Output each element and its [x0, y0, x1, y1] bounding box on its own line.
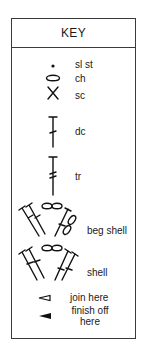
legend-label-dc: dc [75, 126, 86, 137]
legend-label-shell: shell [87, 267, 108, 278]
legend-label-line: finish off [67, 305, 113, 316]
key-header: KEY [12, 19, 135, 48]
legend-label-join-here: join here [70, 292, 108, 303]
legend-label-ch: ch [75, 73, 86, 84]
x-icon [46, 86, 60, 100]
dc-icon [47, 116, 59, 148]
legend-label-tr: tr [75, 171, 81, 182]
legend-label-beg-shell: beg shell [87, 225, 127, 236]
oval-icon [45, 74, 61, 82]
key-title: KEY [61, 26, 86, 40]
shell-icon [17, 244, 89, 284]
dot-icon [49, 62, 57, 70]
legend-label-line: here [67, 316, 113, 327]
legend-label-finish-off-here: finish off here [67, 305, 113, 327]
legend-label-sl-st: sl st [75, 59, 93, 70]
beg-shell-icon [17, 202, 87, 242]
tr-icon [47, 156, 59, 196]
legend-label-sc: sc [75, 90, 85, 101]
filled-triangle-icon [38, 312, 52, 320]
open-triangle-icon [38, 294, 52, 302]
stitch-key-legend: KEY sl st ch sc dc tr [11, 18, 136, 339]
